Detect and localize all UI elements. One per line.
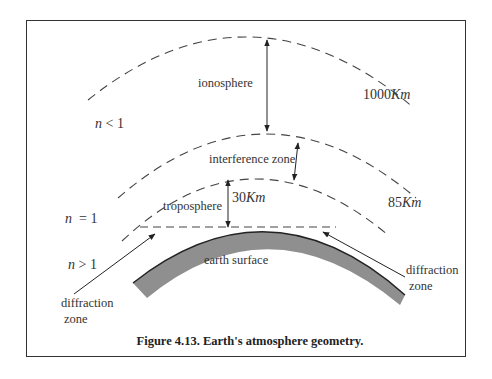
refractive-index-equal-one: n = 1 bbox=[65, 212, 97, 226]
right-diffraction-label-line1: diffraction bbox=[406, 264, 459, 277]
left-diffraction-label-line2: zone bbox=[64, 313, 88, 326]
altitude-85km-label: 85Km bbox=[388, 196, 421, 210]
altitude-1000km-label: 1000Km bbox=[363, 88, 410, 102]
refractive-index-greater-than-one: n > 1 bbox=[68, 258, 97, 272]
interference-zone-label: interference zone bbox=[209, 153, 295, 166]
ionosphere-label: ionosphere bbox=[198, 77, 253, 90]
altitude-30km-label: 30Km bbox=[232, 191, 265, 205]
refractive-index-less-than-one: n < 1 bbox=[95, 117, 124, 131]
arc-85km bbox=[118, 134, 416, 198]
figure-caption: Figure 4.13. Earth's atmosphere geometry… bbox=[30, 334, 470, 349]
earth-surface-band bbox=[133, 232, 405, 305]
left-diffraction-label-line1: diffraction bbox=[61, 297, 114, 310]
right-diffraction-label-line2: zone bbox=[409, 280, 433, 293]
earth-surface-label: earth surface bbox=[204, 254, 268, 267]
troposphere-label: troposphere bbox=[163, 200, 222, 213]
